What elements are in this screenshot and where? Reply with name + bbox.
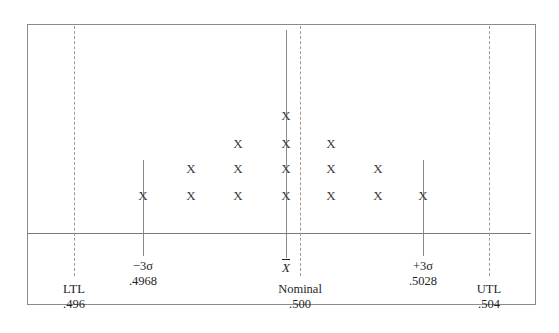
data-point: X (373, 162, 382, 175)
reference-line-ltl (74, 26, 75, 276)
data-point: X (233, 137, 242, 150)
data-point: X (186, 189, 195, 202)
axis-label-lower-sigma-name: −3σ (129, 259, 157, 274)
axis-label-nominal-value: .500 (278, 297, 322, 312)
data-point: X (326, 137, 335, 150)
axis-label-ltl-name: LTL (63, 282, 85, 297)
horizontal-axis-line (27, 233, 531, 234)
data-point: X (418, 189, 427, 202)
axis-label-xbar: X (282, 260, 290, 276)
axis-label-upper-sigma-name: +3σ (409, 259, 437, 274)
data-point: X (281, 137, 290, 150)
reference-line-upper-sigma (423, 160, 424, 256)
axis-label-ltl-value: .496 (63, 297, 85, 312)
axis-label-lower-sigma-value: .4968 (129, 274, 157, 289)
axis-label-nominal-name: Nominal (278, 282, 322, 297)
data-point: X (233, 162, 242, 175)
axis-label-upper-sigma: +3σ .5028 (409, 259, 437, 289)
data-point: X (233, 189, 242, 202)
data-point: X (281, 162, 290, 175)
reference-line-lower-sigma (143, 160, 144, 256)
data-point: X (326, 189, 335, 202)
axis-label-utl: UTL .504 (477, 282, 501, 312)
axis-label-ltl: LTL .496 (63, 282, 85, 312)
axis-label-xbar-symbol: X (282, 260, 290, 275)
data-point: X (281, 189, 290, 202)
reference-line-utl (489, 26, 490, 276)
reference-line-nominal (300, 26, 301, 276)
data-point: X (326, 162, 335, 175)
axis-label-utl-name: UTL (477, 282, 501, 297)
data-point: X (138, 189, 147, 202)
axis-label-upper-sigma-value: .5028 (409, 274, 437, 289)
axis-label-utl-value: .504 (477, 297, 501, 312)
data-point: X (281, 109, 290, 122)
data-point: X (186, 162, 195, 175)
axis-label-nominal: Nominal .500 (278, 282, 322, 312)
axis-label-lower-sigma: −3σ .4968 (129, 259, 157, 289)
data-point: X (373, 189, 382, 202)
chart-page: XXXXXXXXXXXXXXXX LTL .496 −3σ .4968 X No… (0, 0, 559, 333)
